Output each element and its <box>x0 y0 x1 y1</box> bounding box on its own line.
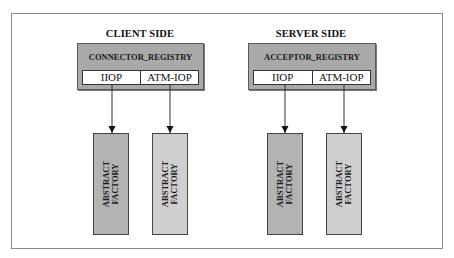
connector-arrows <box>0 0 454 258</box>
client-atm-abstract-factory: ABSTRACT FACTORY <box>152 133 188 235</box>
factory-label: ABSTRACT FACTORY <box>335 161 353 207</box>
factory-label: ABSTRACT FACTORY <box>276 161 294 207</box>
factory-label: ABSTRACT FACTORY <box>161 161 179 207</box>
server-atm-abstract-factory: ABSTRACT FACTORY <box>326 133 362 235</box>
factory-label-line2: FACTORY <box>285 161 294 207</box>
factory-label-line2: FACTORY <box>170 161 179 207</box>
client-iiop-abstract-factory: ABSTRACT FACTORY <box>93 133 129 235</box>
factory-label-line2: FACTORY <box>111 161 120 207</box>
server-iiop-abstract-factory: ABSTRACT FACTORY <box>267 133 303 235</box>
factory-label-line2: FACTORY <box>344 161 353 207</box>
factory-label: ABSTRACT FACTORY <box>102 161 120 207</box>
